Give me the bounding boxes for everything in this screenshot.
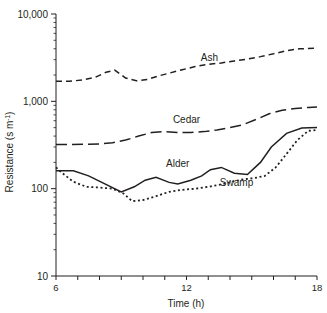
series-label-cedar: Cedar xyxy=(173,114,201,125)
y-tick-label: 1,000 xyxy=(23,96,48,107)
series-inline-labels: AshCedarAlderSwamp xyxy=(166,52,254,188)
y-tick-label: 10,000 xyxy=(17,9,48,20)
series-line-ash xyxy=(56,48,317,81)
x-tick-label: 12 xyxy=(181,282,192,293)
y-tick-label: 10 xyxy=(37,271,49,282)
x-axis-ticks xyxy=(56,276,317,280)
x-axis-tick-labels: 61218 xyxy=(53,282,322,293)
y-tick-label: 100 xyxy=(31,183,48,194)
chart-svg: 10,0001,00010010 61218 AshCedarAlderSwam… xyxy=(0,0,327,313)
y-axis-title: Resistance (s m-1) xyxy=(4,112,15,193)
x-axis-title: Time (h) xyxy=(168,298,205,309)
chart-figure: 10,0001,00010010 61218 AshCedarAlderSwam… xyxy=(0,0,327,313)
x-tick-label: 6 xyxy=(53,282,58,293)
series-line-cedar xyxy=(56,107,317,145)
y-axis-ticks xyxy=(51,14,56,276)
series-label-swamp: Swamp xyxy=(220,177,254,188)
x-tick-label: 18 xyxy=(312,282,323,293)
axis-lines xyxy=(56,14,317,276)
y-axis-tick-labels: 10,0001,00010010 xyxy=(17,9,48,282)
series-label-alder: Alder xyxy=(166,158,190,169)
series-label-ash: Ash xyxy=(201,52,218,63)
